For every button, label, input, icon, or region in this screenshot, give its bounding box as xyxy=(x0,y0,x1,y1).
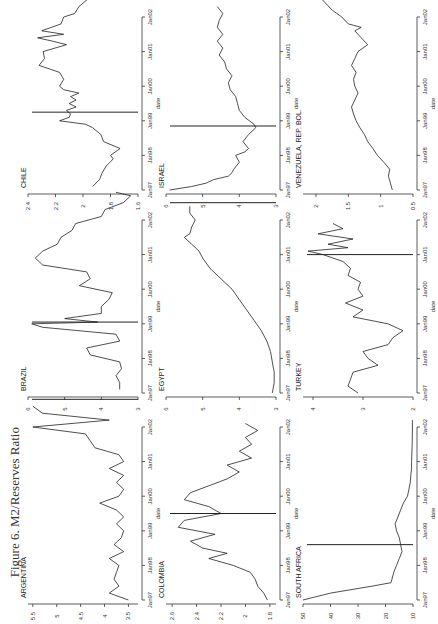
panel-argentina: 5.554.543.5Jan97Jan98Jan99Jan00Jan01Jan0… xyxy=(20,415,152,615)
svg-text:Jan97: Jan97 xyxy=(422,384,428,401)
svg-text:5: 5 xyxy=(200,407,206,411)
svg-text:Jan02: Jan02 xyxy=(285,211,291,228)
svg-text:6: 6 xyxy=(163,407,169,411)
svg-text:Jan98: Jan98 xyxy=(285,147,291,164)
panel-egypt: 6543Jan97Jan98Jan99Jan00Jan01Jan02EGYPTd… xyxy=(158,208,290,408)
series-line xyxy=(32,192,131,389)
svg-text:Jan00: Jan00 xyxy=(147,487,153,504)
svg-text:Jan02: Jan02 xyxy=(147,211,153,228)
svg-text:2.4: 2.4 xyxy=(194,611,200,620)
panel-title: CHILE xyxy=(20,167,27,188)
panel-south-africa: 5040302010Jan97Jan98Jan99Jan00Jan01Jan02… xyxy=(295,415,427,615)
svg-text:Jan99: Jan99 xyxy=(285,112,291,129)
svg-text:Jan02: Jan02 xyxy=(147,8,153,25)
panel-title: ARGENTINA xyxy=(20,557,27,598)
series-line xyxy=(313,0,393,190)
svg-text:Jan00: Jan00 xyxy=(285,487,291,504)
svg-text:Jan97: Jan97 xyxy=(422,181,428,198)
panel-chile: 2.42.221.81.6Jan97Jan98Jan99Jan00Jan01Ja… xyxy=(20,5,152,205)
svg-text:2: 2 xyxy=(242,614,248,618)
svg-text:Jan97: Jan97 xyxy=(147,591,153,608)
series-line xyxy=(308,224,403,394)
panel-title: EGYPT xyxy=(158,367,165,391)
svg-text:Jan01: Jan01 xyxy=(147,43,153,60)
panel-venezuela-rep-bol: 21.510.5Jan97Jan98Jan99Jan00Jan01Jan02VE… xyxy=(295,5,427,205)
svg-text:50: 50 xyxy=(300,612,306,619)
svg-text:Jan98: Jan98 xyxy=(422,147,428,164)
svg-text:Jan99: Jan99 xyxy=(147,112,153,129)
svg-text:Jan99: Jan99 xyxy=(147,522,153,539)
series-line xyxy=(33,406,129,600)
panel-title: COLOMBIA xyxy=(158,561,165,598)
svg-text:Jan01: Jan01 xyxy=(147,246,153,263)
svg-text:Jan97: Jan97 xyxy=(285,181,291,198)
panel-title: SOUTH AFRICA xyxy=(295,546,302,598)
svg-text:Jan99: Jan99 xyxy=(422,112,428,129)
series-line xyxy=(178,424,267,601)
svg-text:1.8: 1.8 xyxy=(267,611,273,620)
svg-text:4: 4 xyxy=(98,407,104,411)
svg-text:Jan01: Jan01 xyxy=(422,43,428,60)
svg-text:Jan00: Jan00 xyxy=(422,487,428,504)
svg-text:Jan01: Jan01 xyxy=(147,453,153,470)
svg-text:3.5: 3.5 xyxy=(125,611,131,620)
svg-text:Jan99: Jan99 xyxy=(422,315,428,332)
svg-text:Jan98: Jan98 xyxy=(285,557,291,574)
panel-title: TURKEY xyxy=(295,362,302,391)
svg-text:Jan01: Jan01 xyxy=(422,453,428,470)
svg-text:Jan01: Jan01 xyxy=(422,246,428,263)
svg-text:Jan00: Jan00 xyxy=(285,77,291,94)
panel-brazil: 6543Jan97Jan98Jan99Jan00Jan01Jan02BRAZIL… xyxy=(20,208,152,408)
svg-text:date: date xyxy=(430,97,436,109)
svg-text:6: 6 xyxy=(25,407,31,411)
svg-text:Jan98: Jan98 xyxy=(147,557,153,574)
svg-text:2: 2 xyxy=(410,407,416,411)
svg-text:2.6: 2.6 xyxy=(169,611,175,620)
series-line xyxy=(170,7,256,190)
svg-text:3: 3 xyxy=(135,407,141,411)
svg-text:Jan01: Jan01 xyxy=(285,453,291,470)
svg-text:Jan01: Jan01 xyxy=(285,43,291,60)
svg-text:Jan00: Jan00 xyxy=(147,77,153,94)
svg-text:Jan02: Jan02 xyxy=(422,8,428,25)
figure-title: Figure 6. M2/Reserves Ratio xyxy=(7,427,21,624)
svg-text:Jan98: Jan98 xyxy=(285,350,291,367)
svg-text:Jan01: Jan01 xyxy=(285,246,291,263)
svg-text:30: 30 xyxy=(355,612,361,619)
svg-text:Jan97: Jan97 xyxy=(285,384,291,401)
svg-text:20: 20 xyxy=(383,612,389,619)
svg-text:Jan99: Jan99 xyxy=(285,522,291,539)
panel-title: VENEZUELA, REP. BOL. xyxy=(295,109,302,188)
svg-text:Jan00: Jan00 xyxy=(422,77,428,94)
svg-text:Jan02: Jan02 xyxy=(147,418,153,435)
svg-text:Jan97: Jan97 xyxy=(147,384,153,401)
series-line xyxy=(303,420,412,600)
svg-text:4: 4 xyxy=(310,407,316,411)
svg-text:date: date xyxy=(430,507,436,519)
svg-text:10: 10 xyxy=(410,612,416,619)
svg-text:Jan98: Jan98 xyxy=(147,147,153,164)
panel-title: ISRAEL xyxy=(158,163,165,188)
svg-text:Jan99: Jan99 xyxy=(422,522,428,539)
svg-text:40: 40 xyxy=(328,612,334,619)
panel-colombia: 2.62.42.221.8Jan97Jan98Jan99Jan00Jan01Ja… xyxy=(158,415,290,615)
svg-text:Jan98: Jan98 xyxy=(422,350,428,367)
svg-text:Jan98: Jan98 xyxy=(422,557,428,574)
svg-text:3: 3 xyxy=(273,407,279,411)
svg-text:5: 5 xyxy=(54,614,60,618)
svg-text:Jan97: Jan97 xyxy=(422,591,428,608)
svg-text:4.5: 4.5 xyxy=(78,611,84,620)
svg-text:Jan00: Jan00 xyxy=(285,280,291,297)
svg-text:4: 4 xyxy=(236,407,242,411)
svg-text:5: 5 xyxy=(62,407,68,411)
svg-text:Jan02: Jan02 xyxy=(422,211,428,228)
series-line xyxy=(38,0,121,186)
svg-text:Jan00: Jan00 xyxy=(147,280,153,297)
svg-text:Jan98: Jan98 xyxy=(147,350,153,367)
panel-title: BRAZIL xyxy=(20,366,27,391)
panel-israel: 6543Jan97Jan98Jan99Jan00Jan01Jan02ISRAEL… xyxy=(158,5,290,205)
svg-text:Jan02: Jan02 xyxy=(285,8,291,25)
svg-text:Jan02: Jan02 xyxy=(422,418,428,435)
svg-text:3: 3 xyxy=(360,407,366,411)
svg-text:Jan99: Jan99 xyxy=(285,315,291,332)
